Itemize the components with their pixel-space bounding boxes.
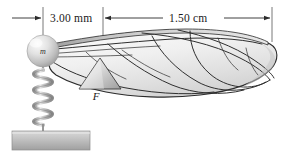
- dimension-right-span: 1.50 cm: [105, 12, 270, 24]
- base-block: [12, 131, 90, 150]
- dimension-label-1-50cm: 1.50 cm: [169, 12, 207, 24]
- insect-wing: [44, 29, 277, 97]
- mass-ball: m: [27, 35, 59, 67]
- mass-label-m: m: [40, 47, 46, 56]
- physics-diagram-svg: 3.00 mm 1.50 cm: [0, 0, 288, 154]
- figure-canvas: 3.00 mm 1.50 cm: [0, 0, 288, 154]
- spring-assembly: [34, 64, 52, 132]
- support-base: [12, 131, 90, 150]
- force-label-F: F: [92, 90, 100, 102]
- dimension-left-span: 3.00 mm: [12, 12, 92, 24]
- dimension-label-3mm: 3.00 mm: [50, 12, 92, 24]
